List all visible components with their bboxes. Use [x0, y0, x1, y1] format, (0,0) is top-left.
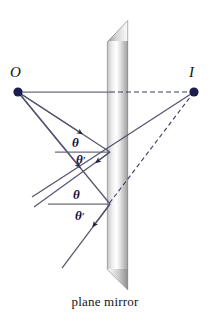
theta-upper-incident-label: θ — [72, 135, 79, 151]
incident-ray-lower — [18, 92, 110, 204]
object-point-dot — [13, 87, 22, 96]
theta-prime-lower-reflected-label: θ′ — [75, 208, 85, 224]
plane-mirror-bar — [107, 20, 128, 290]
theta-glyph: θ — [72, 135, 79, 150]
theta-glyph: θ — [75, 208, 82, 223]
theta-glyph: θ — [73, 187, 80, 202]
mirror-body — [107, 41, 128, 270]
theta-lower-incident-label: θ — [73, 187, 80, 203]
object-point-label: O — [10, 64, 21, 81]
prime-glyph: ′ — [83, 155, 86, 166]
incident-ray-upper — [18, 92, 110, 152]
plane-mirror-ray-diagram — [0, 0, 210, 324]
reflected-ray-upper — [34, 152, 110, 207]
reflected-ray-lower — [62, 204, 110, 268]
image-point-dot — [189, 87, 198, 96]
image-point-label: I — [189, 64, 194, 81]
prime-glyph: ′ — [82, 211, 85, 222]
theta-glyph: θ — [76, 152, 83, 167]
figure-caption: plane mirror — [0, 294, 210, 310]
theta-prime-upper-reflected-label: θ′ — [76, 152, 86, 168]
